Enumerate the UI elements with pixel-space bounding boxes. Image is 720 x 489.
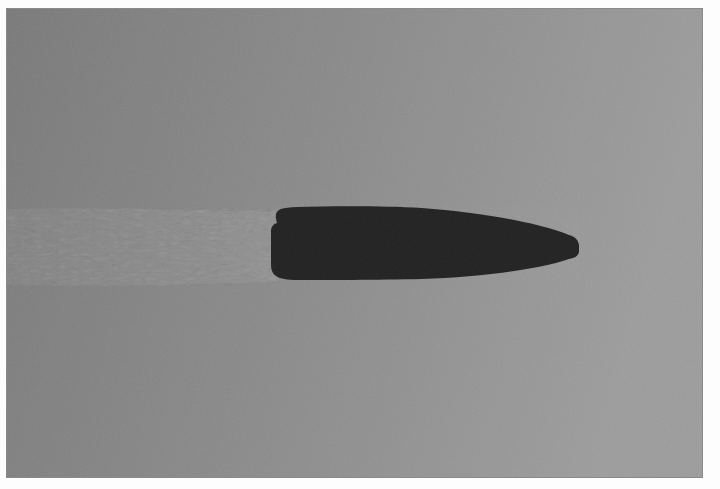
photo-canvas — [7, 9, 703, 478]
turbulent-wake — [7, 208, 277, 286]
image-frame — [0, 0, 720, 489]
shadowgraph-photo — [6, 8, 703, 478]
